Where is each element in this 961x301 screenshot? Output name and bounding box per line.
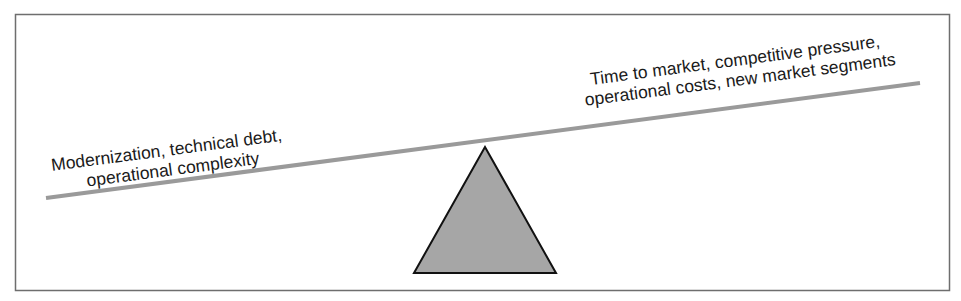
balance-diagram: Modernization, technical debt, operation… <box>0 0 961 301</box>
